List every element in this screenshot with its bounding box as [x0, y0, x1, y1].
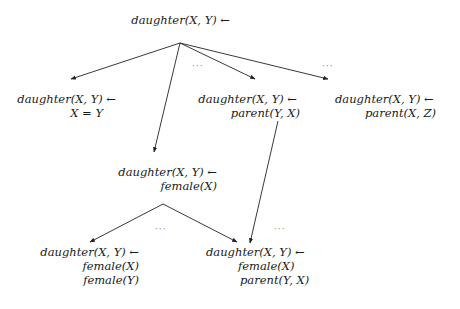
ellipsis-more-refinements: ···: [192, 62, 204, 71]
clause-head: daughter(X, Y) ←: [206, 245, 310, 259]
node-female-x-parent-y-x: daughter(X, Y) ← female(X) parent(Y, X): [206, 245, 310, 287]
node-x-equals-y: daughter(X, Y) ← X = Y: [16, 92, 116, 120]
clause-body-literal: parent(Y, X): [206, 273, 310, 287]
node-root: daughter(X, Y) ←: [131, 13, 230, 27]
clause-body-literal: parent(X, Z): [335, 106, 436, 120]
ellipsis-more-refinements: ···: [274, 225, 286, 234]
edge-n4-to-n5: [90, 204, 163, 242]
edge-root-to-n4: [154, 43, 180, 152]
clause-head: daughter(X, Y) ←: [131, 13, 230, 27]
clause-body-literal: female(X): [117, 179, 217, 193]
node-parent-x-z: daughter(X, Y) ← parent(X, Z): [335, 92, 436, 120]
ellipsis-more-refinements: ···: [322, 62, 334, 71]
clause-head: daughter(X, Y) ←: [117, 165, 217, 179]
clause-head: daughter(X, Y) ←: [198, 92, 300, 106]
refinement-graph: daughter(X, Y) ← daughter(X, Y) ← X = Y …: [0, 0, 460, 309]
clause-head: daughter(X, Y) ←: [335, 92, 436, 106]
edge-n4-to-n6: [163, 204, 237, 242]
clause-body-literal: parent(Y, X): [198, 106, 300, 120]
edge-root-to-n1: [71, 43, 180, 79]
node-female-x: daughter(X, Y) ← female(X): [117, 165, 217, 193]
ellipsis-more-refinements: ···: [155, 225, 167, 234]
clause-body-literal: female(X): [206, 259, 310, 273]
node-female-x-female-y: daughter(X, Y) ← female(X) female(Y): [39, 245, 139, 287]
clause-body-literal: X = Y: [16, 106, 116, 120]
clause-body-literal: female(Y): [39, 273, 139, 287]
clause-body-literal: female(X): [39, 259, 139, 273]
clause-head: daughter(X, Y) ←: [39, 245, 139, 259]
node-parent-y-x: daughter(X, Y) ← parent(Y, X): [198, 92, 300, 120]
clause-head: daughter(X, Y) ←: [16, 92, 116, 106]
